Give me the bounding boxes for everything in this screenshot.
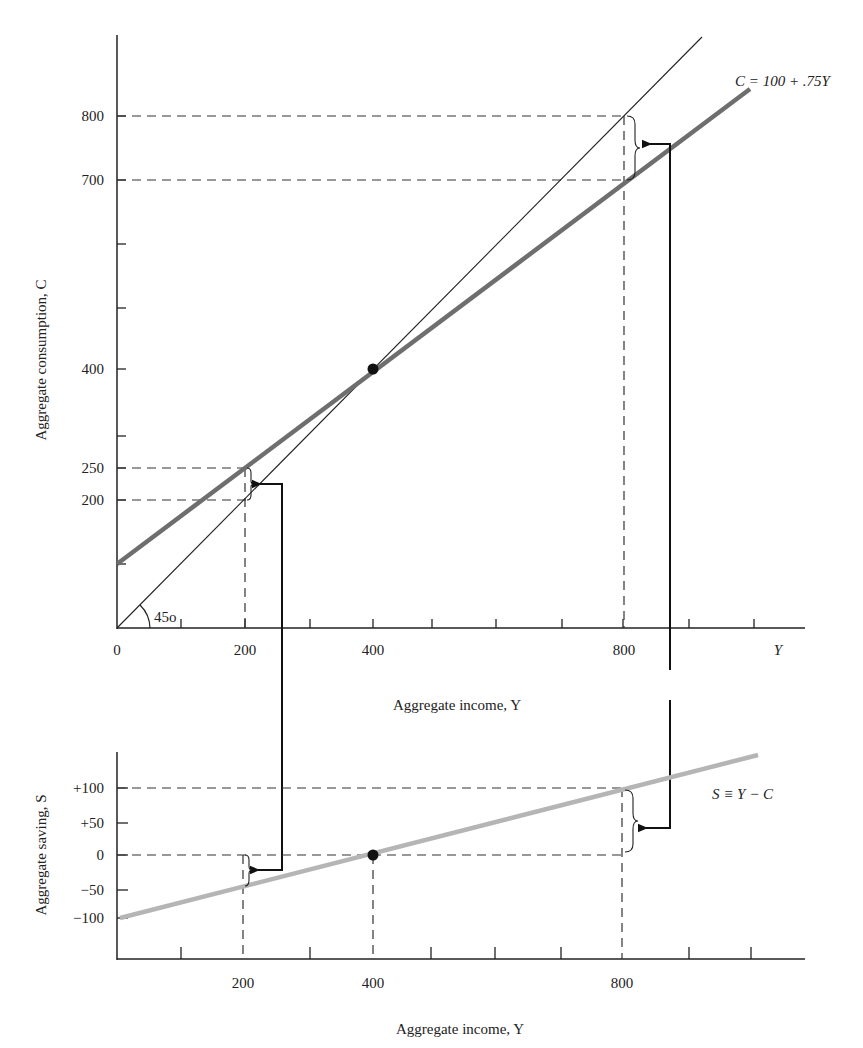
consumption-curve-label: C = 100 + .75Y xyxy=(735,73,831,89)
y-tick-250: 250 xyxy=(82,460,105,476)
s-tick-zero: 0 xyxy=(97,847,105,863)
consumption-line xyxy=(117,89,750,564)
bx-tick-800: 800 xyxy=(611,975,634,991)
bx-tick-400: 400 xyxy=(362,975,385,991)
bx-tick-200: 200 xyxy=(232,975,255,991)
consumption-chart: 800 700 400 250 200 0 200 400 800 Y Aggr… xyxy=(33,35,831,713)
connecting-arrows xyxy=(258,144,670,870)
chart-canvas: 800 700 400 250 200 0 200 400 800 Y Aggr… xyxy=(0,0,863,1048)
break-even-point xyxy=(368,850,379,861)
x-tick-0: 0 xyxy=(113,642,121,658)
x-tick-800: 800 xyxy=(613,642,636,658)
arrow-up-to-consumption-200 xyxy=(260,484,282,870)
bottom-y-axis-title: Aggregate saving, S xyxy=(33,794,49,915)
y-tick-400: 400 xyxy=(82,361,105,377)
saving-chart: +100 +50 0 −50 −100 200 400 800 Aggregat… xyxy=(33,752,805,1037)
arrow-up-to-consumption-800 xyxy=(650,144,670,670)
top-x-ticks xyxy=(181,619,754,628)
top-y-ticks xyxy=(117,116,126,564)
angle-label: 45o xyxy=(154,609,177,625)
bottom-dashed-guides xyxy=(117,788,624,959)
bottom-x-ticks xyxy=(181,947,751,959)
top-x-axis-title: Aggregate income, Y xyxy=(393,697,521,713)
arrow-to-saving-200 xyxy=(258,700,282,870)
equilibrium-point xyxy=(368,364,379,375)
bottom-y-ticks xyxy=(117,788,128,918)
s-tick-minus50: −50 xyxy=(81,882,104,898)
brace-s800 xyxy=(625,790,638,852)
s-tick-plus100: +100 xyxy=(73,780,104,796)
brace-s200 xyxy=(245,855,252,886)
s-tick-minus100: −100 xyxy=(73,910,104,926)
bottom-x-axis-title: Aggregate income, Y xyxy=(396,1021,524,1037)
saving-curve-label: S ≡ Y − C xyxy=(712,786,774,802)
saving-line xyxy=(120,755,758,918)
forty-five-degree-line xyxy=(117,37,702,628)
arrow-to-saving-800 xyxy=(646,700,670,828)
x-tick-400: 400 xyxy=(362,642,385,658)
y-tick-200: 200 xyxy=(82,492,105,508)
y-tick-800: 800 xyxy=(82,108,105,124)
s-tick-plus50: +50 xyxy=(81,815,104,831)
x-tick-200: 200 xyxy=(234,642,257,658)
top-y-axis-title: Aggregate consumption, C xyxy=(33,279,49,440)
x-axis-end-label: Y xyxy=(774,642,784,658)
angle-arc xyxy=(140,605,150,628)
y-tick-700: 700 xyxy=(82,172,105,188)
